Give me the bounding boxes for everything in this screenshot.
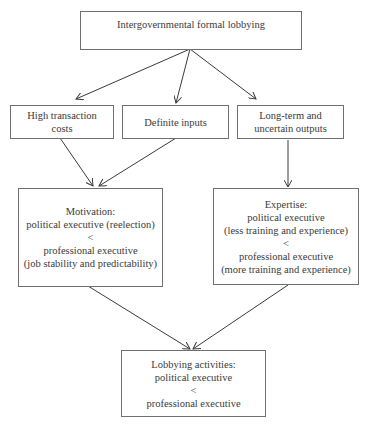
node-intergovernmental-formal-lobbying: Intergovernmental formal lobbying: [80, 11, 302, 50]
edge-root-outputs: [190, 49, 256, 99]
node-label: Intergovernmental formal lobbying: [117, 18, 265, 31]
edge-root-cost: [76, 49, 190, 99]
node-label: Lobbying activities:: [151, 358, 235, 371]
node-motivation: Motivation: political executive (reelect…: [18, 188, 163, 287]
node-lobbying-activities: Lobbying activities: political executive…: [121, 350, 266, 417]
node-label: political executive: [247, 211, 324, 224]
node-label: political executive: [155, 371, 232, 384]
node-label: uncertain outputs: [254, 122, 327, 135]
node-label: Definite inputs: [144, 116, 207, 129]
node-label: professional executive: [43, 244, 137, 257]
node-label: <: [191, 384, 197, 397]
node-label: Motivation:: [66, 205, 116, 218]
node-definite-inputs: Definite inputs: [122, 105, 229, 139]
node-label: professional executive: [146, 397, 240, 410]
node-label: Expertise:: [265, 198, 308, 211]
node-label: <: [283, 237, 289, 250]
edge-expertise-lobbying: [193, 285, 288, 349]
node-label: professional executive: [239, 250, 333, 263]
node-label: political executive (reelection): [26, 218, 154, 231]
node-expertise: Expertise: political executive (less tra…: [213, 188, 359, 285]
node-label: Long-term and: [259, 109, 322, 122]
node-label: (less training and experience): [224, 224, 348, 237]
node-label: (more training and experience): [221, 263, 351, 276]
node-label: <: [88, 231, 94, 244]
edge-inputs-motivation: [99, 138, 176, 186]
node-label: (job stability and predictability): [24, 257, 157, 270]
node-label: costs: [52, 122, 73, 135]
edge-cost-motivation: [60, 138, 93, 186]
edge-motivation-lobbying: [88, 286, 190, 349]
edge-root-inputs: [176, 49, 190, 103]
node-label: High transaction: [27, 109, 97, 122]
node-high-transaction-costs: High transaction costs: [10, 105, 114, 139]
node-long-term-uncertain-outputs: Long-term and uncertain outputs: [237, 105, 344, 139]
